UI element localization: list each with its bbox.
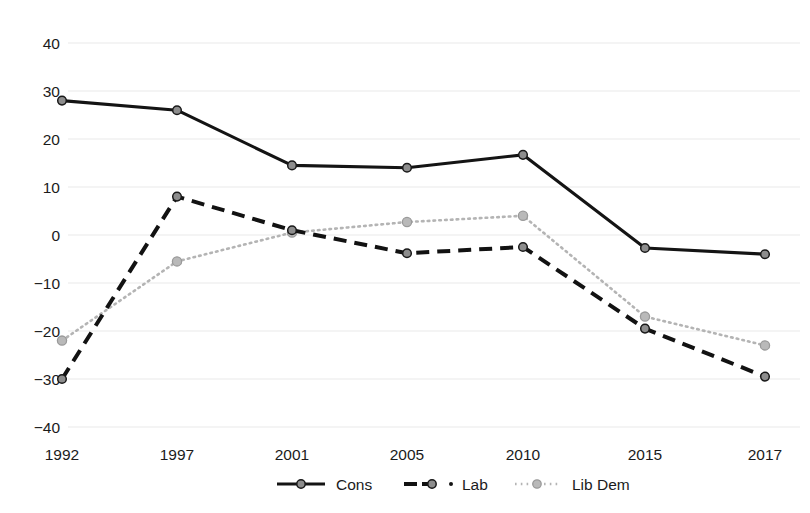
legend-entry-lib-dem[interactable]: Lib Dem — [515, 476, 630, 493]
data-point — [641, 324, 650, 333]
series-cons — [58, 96, 770, 258]
data-point — [57, 336, 66, 345]
legend-label-lab: Lab — [462, 476, 488, 493]
chart-container: 40 30 20 10 0 −10 −20 −30 −40 1992 1997 … — [0, 0, 810, 513]
data-point — [519, 151, 528, 160]
data-point — [173, 106, 182, 115]
series-markers-cons — [58, 96, 770, 258]
data-point — [519, 243, 528, 252]
data-point — [173, 192, 182, 201]
y-tick-label-neg20: −20 — [34, 323, 61, 340]
legend-label-cons: Cons — [336, 476, 372, 493]
data-point — [403, 249, 412, 258]
y-tick-label-20: 20 — [43, 131, 61, 148]
y-tick-label-10: 10 — [43, 179, 61, 196]
x-axis-tick-labels: 1992 1997 2001 2005 2010 2015 2017 — [45, 446, 782, 463]
data-point — [288, 161, 297, 170]
data-point — [641, 244, 650, 253]
y-tick-label-neg30: −30 — [34, 371, 61, 388]
legend-swatch-lib-dem-marker — [533, 480, 541, 488]
series-markers-lib-dem — [57, 211, 769, 350]
y-tick-label-0: 0 — [51, 227, 60, 244]
x-tick-label-2015: 2015 — [628, 446, 662, 463]
series-markers-lab — [58, 192, 770, 383]
data-point — [518, 211, 527, 220]
x-tick-label-1997: 1997 — [160, 446, 194, 463]
line-chart: 40 30 20 10 0 −10 −20 −30 −40 1992 1997 … — [0, 0, 810, 513]
x-tick-label-1992: 1992 — [45, 446, 79, 463]
y-tick-label-neg10: −10 — [34, 275, 61, 292]
x-tick-label-2005: 2005 — [390, 446, 424, 463]
data-point — [761, 250, 770, 259]
legend-label-lib-dem: Lib Dem — [572, 476, 630, 493]
data-point — [761, 372, 770, 381]
legend-entry-lab[interactable]: Lab — [404, 476, 488, 493]
legend-swatch-lab-dot — [449, 482, 453, 486]
chart-legend: Cons Lab Lib Dem — [277, 476, 630, 493]
legend-entry-cons[interactable]: Cons — [277, 476, 372, 493]
series-line-lab — [62, 197, 765, 379]
gridlines — [68, 43, 800, 427]
series-lab — [58, 192, 770, 383]
data-point — [403, 164, 412, 173]
data-point — [58, 375, 67, 384]
legend-swatch-lab-marker — [428, 480, 436, 488]
y-tick-label-30: 30 — [43, 83, 61, 100]
legend-swatch-cons-marker — [297, 480, 305, 488]
data-point — [288, 226, 297, 235]
data-point — [172, 257, 181, 266]
data-point — [640, 312, 649, 321]
x-tick-label-2010: 2010 — [506, 446, 541, 463]
data-point — [402, 217, 411, 226]
x-tick-label-2001: 2001 — [275, 446, 309, 463]
series-line-cons — [62, 101, 765, 255]
y-tick-label-neg40: −40 — [34, 419, 61, 436]
y-tick-label-40: 40 — [43, 35, 61, 52]
x-tick-label-2017: 2017 — [748, 446, 782, 463]
data-point — [58, 96, 67, 105]
series-lib-dem — [57, 211, 769, 350]
data-point — [760, 341, 769, 350]
y-axis-tick-labels: 40 30 20 10 0 −10 −20 −30 −40 — [34, 35, 61, 436]
